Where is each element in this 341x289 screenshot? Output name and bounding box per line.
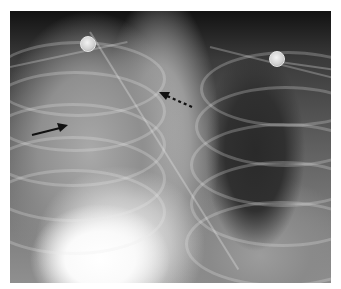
dashed-arrow-icon xyxy=(159,92,192,107)
annotation-arrows xyxy=(10,11,331,283)
chest-xray-image xyxy=(10,11,331,283)
solid-arrow-icon xyxy=(32,123,68,135)
